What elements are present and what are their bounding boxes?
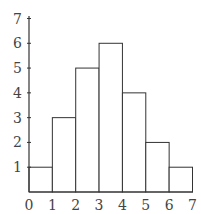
histogram-bar [99, 43, 122, 192]
y-tick-label: 7 [13, 11, 22, 27]
histogram-chart: 1234567 01234567 [0, 0, 201, 214]
y-tick-label: 3 [13, 110, 22, 126]
histogram-bar [122, 93, 145, 192]
x-tick-label: 5 [141, 197, 150, 213]
y-ticks: 1234567 [13, 11, 31, 176]
x-tick-label: 2 [71, 197, 80, 213]
histogram-bar [52, 118, 75, 192]
histogram-bar [29, 167, 52, 192]
x-tick-label: 7 [188, 197, 197, 213]
x-tick-label: 3 [95, 197, 104, 213]
x-tick-label: 6 [165, 197, 174, 213]
y-tick-label: 5 [13, 60, 22, 76]
y-tick-label: 2 [13, 134, 22, 150]
y-tick-label: 4 [13, 85, 22, 101]
x-tick-label: 4 [118, 197, 127, 213]
histogram-bar [146, 142, 169, 192]
x-tick-label: 0 [25, 197, 34, 213]
y-tick-label: 1 [13, 159, 22, 175]
x-ticks: 01234567 [25, 197, 197, 213]
histogram-bar [76, 68, 99, 192]
histogram-bar [169, 167, 192, 192]
x-tick-label: 1 [48, 197, 57, 213]
bars-group [29, 43, 193, 192]
y-tick-label: 6 [13, 35, 22, 51]
